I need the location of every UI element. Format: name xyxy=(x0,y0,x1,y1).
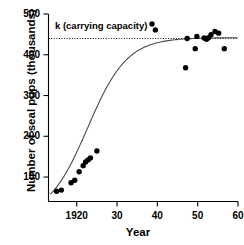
data-point xyxy=(88,155,93,160)
y-ticks-group xyxy=(44,14,49,177)
data-point xyxy=(153,27,158,32)
carrying-capacity-label: k (carrying capacity) xyxy=(55,20,147,31)
y-tick-label: 400 xyxy=(12,49,40,60)
data-point xyxy=(216,30,221,35)
seal-pup-population-chart: Number of seal pups (thousands) Year k (… xyxy=(0,0,244,245)
data-point xyxy=(185,36,190,41)
x-tick-label: 30 xyxy=(100,210,134,221)
data-point xyxy=(194,34,199,39)
data-point xyxy=(222,46,227,51)
y-tick-label: 500 xyxy=(12,8,40,19)
data-point xyxy=(94,148,99,153)
data-point xyxy=(183,65,188,70)
data-point xyxy=(76,169,81,174)
x-tick-label: 40 xyxy=(140,210,174,221)
axes-group xyxy=(48,14,238,202)
y-tick-label: 300 xyxy=(12,90,40,101)
data-points-group xyxy=(54,21,227,194)
data-point xyxy=(54,189,59,194)
x-tick-label: 60 xyxy=(221,210,244,221)
x-axis-title: Year xyxy=(48,226,228,238)
data-point xyxy=(59,187,64,192)
y-axis-title: Number of seal pups (thousands) xyxy=(25,12,37,192)
x-tick-label: 50 xyxy=(181,210,215,221)
x-tick-label: 1920 xyxy=(60,210,94,221)
x-ticks-group xyxy=(77,202,238,207)
data-point xyxy=(72,178,77,183)
y-tick-label: 200 xyxy=(12,130,40,141)
y-tick-label: 100 xyxy=(12,171,40,182)
data-point xyxy=(193,46,198,51)
data-point xyxy=(149,21,154,26)
